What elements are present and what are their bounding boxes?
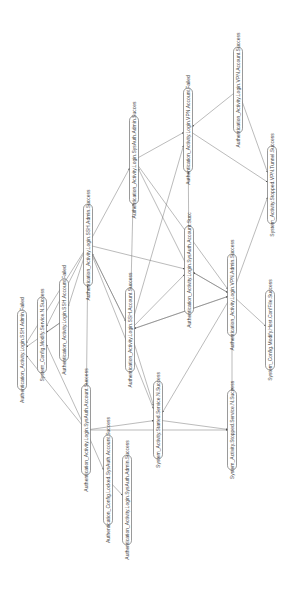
graph-node[interactable]: System_Config.Modify.Service.N.Success <box>38 288 47 381</box>
graph-edge <box>188 130 268 182</box>
graph-edge <box>27 356 87 430</box>
graph-edge <box>134 133 184 161</box>
graph-node[interactable]: Authentication_Activity.Login.SSH.Accoun… <box>60 265 69 375</box>
dependency-graph: Authentication_Activity.Login.SSH.Admin.… <box>0 0 298 608</box>
node-label: System_Activity.Stopped.VPN.Tunnel.Succe… <box>269 133 275 237</box>
graph-node[interactable]: Authentication_Activity.Login.SysAuth.Ad… <box>123 440 132 560</box>
node-label: Authentication_Activity.Login.SysAuth.Ad… <box>124 440 130 560</box>
node-label: System_Config.Modify.Service.N.Success <box>39 288 45 381</box>
graph-edge <box>134 160 228 289</box>
node-label: System_Activity.Started.Service.N.Succes… <box>155 372 161 468</box>
graph-canvas: Authentication_Activity.Login.SSH.Admin.… <box>0 0 298 608</box>
graph-edge <box>88 245 185 269</box>
node-label: Authentication_Activity.Login.SSH.Accoun… <box>127 272 133 387</box>
graph-node[interactable]: Authentication_Activity.Login.SysAuth.Ad… <box>130 101 139 218</box>
graph-edge <box>232 295 266 326</box>
graph-node[interactable]: Authentication_Activity.Login.SysAuth.Ac… <box>185 212 194 328</box>
graph-edge <box>158 420 228 429</box>
node-label: Authentication_Activity.Login.SysAuth.Ac… <box>83 368 89 492</box>
graph-edge <box>86 421 154 430</box>
node-label: Authentication_Activity.Login.SSH.Accoun… <box>61 265 67 375</box>
node-label: Authentication_Activity.Login.VPN.Accoun… <box>185 75 191 185</box>
graph-node[interactable]: Authentication_Activity.Login.SSH.Admin.… <box>84 189 93 301</box>
node-layer: Authentication_Activity.Login.SSH.Admin.… <box>18 32 277 560</box>
graph-node[interactable]: Authentication_Activity.Login.VPN.Accoun… <box>184 75 193 185</box>
graph-edge <box>135 295 233 328</box>
node-label: System_Config.Modify.Host.ConfFile.Succe… <box>267 279 273 381</box>
node-label: Authentication_Activity.Login.VPN.Accoun… <box>235 32 241 147</box>
graph-node[interactable]: Authentication_Activity.Login.VPN.Admin.… <box>228 239 237 351</box>
graph-edge <box>193 90 239 126</box>
graph-edge <box>139 169 190 270</box>
graph-node[interactable]: System_Config.Modify.Host.ConfFile.Succe… <box>266 279 275 381</box>
node-label: Authentication_Activity.Login.VPN.Admin.… <box>229 239 235 351</box>
node-label: Authentication_Activity.Login.SSH.Admin.… <box>85 189 91 301</box>
graph-node[interactable]: System_Activity.Stopped.VPN.Tunnel.Succe… <box>268 133 277 237</box>
graph-edge <box>194 273 233 295</box>
graph-node[interactable]: System_Activity.Stopped.Service.N.Succes… <box>228 380 237 479</box>
node-label: System_Activity.Stopped.Service.N.Succes… <box>229 380 235 479</box>
graph-edge <box>88 245 154 409</box>
graph-node[interactable]: Authentication_Activity.Login.SysAuth.Ac… <box>82 368 91 492</box>
node-label: Authentication_Activity.Login.SysAuth.Ac… <box>186 212 192 328</box>
graph-node[interactable]: Authentication_Activity.Login.VPN.Accoun… <box>234 32 243 147</box>
graph-edge <box>232 197 268 295</box>
graph-node[interactable]: Authentication_Activity.Login.SSH.Accoun… <box>126 272 135 387</box>
graph-edge <box>93 254 131 330</box>
graph-edge <box>27 245 89 343</box>
node-label: Authentication_Config.Locked.SysAuth.Acc… <box>105 416 111 543</box>
graph-edge <box>88 168 130 245</box>
graph-node[interactable]: Authentication_Activity.Login.SSH.Admin.… <box>18 297 27 403</box>
graph-edge <box>163 295 233 412</box>
node-label: Authentication_Activity.Login.SysAuth.Ad… <box>131 101 137 218</box>
node-label: Authentication_Activity.Login.SSH.Admin.… <box>19 297 25 403</box>
graph-node[interactable]: Authentication_Config.Locked.SysAuth.Acc… <box>104 416 113 543</box>
graph-node[interactable]: System_Activity.Started.Service.N.Succes… <box>154 372 163 468</box>
